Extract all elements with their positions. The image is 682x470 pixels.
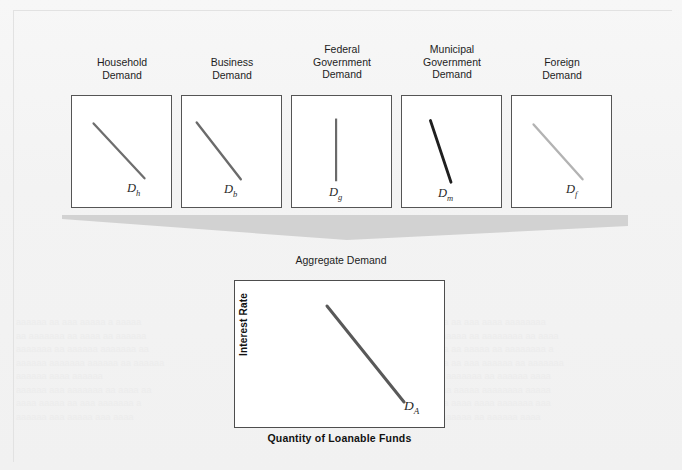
aggregate-demand-caption: Aggregate Demand	[0, 254, 682, 266]
household-demand-curve	[94, 123, 145, 178]
y-axis-label: Interest Rate	[238, 289, 249, 361]
x-axis-label: Quantity of Loanable Funds	[214, 432, 465, 444]
aggregation-funnel	[62, 213, 628, 243]
curve-label-business: Db	[224, 182, 237, 199]
curve-label-federal-government: Dg	[329, 185, 342, 202]
ghost-bleed-text-right: aaaaaa aa aaa aaaa aaaaaaaa aaaa aaaaa a…	[418, 316, 668, 424]
curve-label-household: Dh	[127, 181, 140, 198]
foreign-demand-curve-svg	[512, 96, 611, 207]
business-demand-curve	[197, 122, 241, 179]
component-demand-row: Household Demand Dh Business Demand Db F…	[71, 56, 621, 211]
aggregate-demand-chart: DA Interest Rate Quantity of Loanable Fu…	[234, 280, 445, 428]
ghost-bleed-text-left: aaaaaa aa aaa aaaaa a aaaaa aa aaaaaaa a…	[16, 316, 198, 424]
foreign-demand-curve	[534, 124, 583, 179]
curve-label-municipal-government: Dm	[438, 186, 453, 203]
municipal-government-demand-curve	[430, 121, 451, 183]
scanned-page: aaaaaa aa aaa aaaaa a aaaaa aa aaaaaaa a…	[0, 0, 682, 470]
curve-label-aggregate: DA	[404, 398, 419, 416]
panel-caption-foreign: Foreign Demand	[497, 56, 627, 81]
household-demand-curve-svg	[72, 96, 171, 207]
panel-foreign-demand	[511, 95, 612, 208]
panel-household-demand	[71, 95, 172, 208]
curve-label-foreign: Df	[566, 182, 577, 199]
aggregate-demand-curve	[327, 306, 404, 402]
